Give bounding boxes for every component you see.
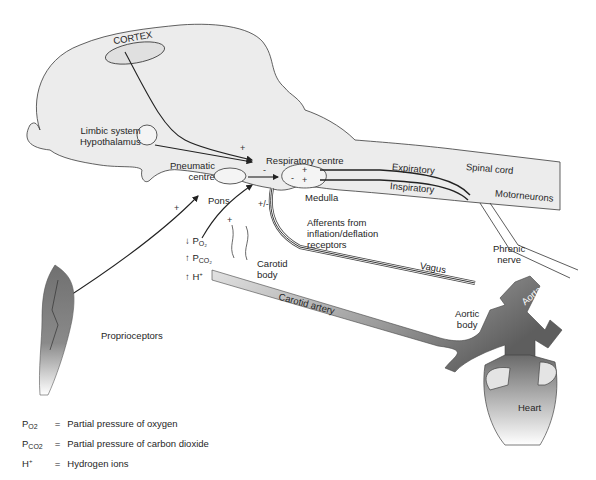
legend-symbol: PCO2 <box>22 438 52 450</box>
up-arrow-icon: ↑ <box>185 271 190 282</box>
stimulus-po2-sub: O₂ <box>199 240 207 247</box>
legend-symbol: H+ <box>22 458 52 469</box>
phrenic-line2: nerve <box>493 254 525 265</box>
limbic-line2: Hypothalamus <box>80 136 141 147</box>
aortic-body-line1: Aortic <box>455 308 479 319</box>
respiration-control-diagram: CORTEX Limbic system Hypothalamus Pneuma… <box>0 0 596 480</box>
cortex-plus-sign: + <box>240 143 245 153</box>
down-arrow-icon: ↓ <box>185 235 190 246</box>
diagram-artwork <box>0 0 596 480</box>
resp-minus-sign: - <box>291 173 294 183</box>
legend-item-h: H+ = Hydrogen ions <box>22 458 129 469</box>
heart-label: Heart <box>518 402 541 413</box>
legend-item-po2: PO2 = Partial pressure of oxygen <box>22 418 178 430</box>
legend-symbol-sup: + <box>29 458 33 464</box>
aortic-body-line2: body <box>455 319 479 330</box>
afferents-line1: Afferents from <box>307 217 378 228</box>
pons-label: Pons <box>208 195 230 206</box>
up-arrow-icon: ↑ <box>185 252 190 263</box>
legend-symbol-sub: CO2 <box>28 443 42 450</box>
proprioceptors-label: Proprioceptors <box>101 330 163 341</box>
carotid-body-line1: Carotid <box>257 258 288 269</box>
afferents-line2: inflation/deflation <box>307 228 378 239</box>
medulla-label: Medulla <box>305 192 338 203</box>
legend-equals: = <box>55 458 65 469</box>
stimulus-po2: ↓ PO₂ <box>185 235 207 249</box>
chemo-plus-sign: + <box>227 215 232 225</box>
pneumatic-minus-sign: - <box>263 165 266 175</box>
legend-item-pco2: PCO2 = Partial pressure of carbon dioxid… <box>22 438 209 450</box>
stimulus-h-sup: + <box>199 271 203 277</box>
resp-plus-sign-1: + <box>302 165 307 175</box>
limbic-line1: Limbic system <box>80 125 141 136</box>
carotid-body-label: Carotid body <box>257 258 288 280</box>
legend-symbol-base: H <box>22 458 29 469</box>
legend-symbol: PO2 <box>22 418 52 430</box>
pneumatic-label: Pneumatic centre <box>170 160 215 182</box>
stimulus-h: ↑ H+ <box>185 269 203 282</box>
legend-text: Partial pressure of carbon dioxide <box>67 438 209 449</box>
aortic-body-label: Aortic body <box>455 308 479 330</box>
afferents-line3: receptors <box>307 239 378 250</box>
resp-plus-sign-2: + <box>302 175 307 185</box>
legend-equals: = <box>55 418 65 429</box>
legend-equals: = <box>55 438 65 449</box>
pneumatic-area <box>214 168 246 184</box>
carotid-body-line2: body <box>257 269 288 280</box>
legend-text: Partial pressure of oxygen <box>67 418 177 429</box>
legend-text: Hydrogen ions <box>67 458 128 469</box>
stimulus-pco2: ↑ PCO₂ <box>185 252 212 266</box>
limbic-label: Limbic system Hypothalamus <box>80 125 141 147</box>
vagus-plusminus-sign: +/- <box>258 199 269 209</box>
pneumatic-line1: Pneumatic <box>170 160 215 171</box>
pneumatic-line2: centre <box>170 171 215 182</box>
phrenic-line1: Phrenic <box>493 243 525 254</box>
stimulus-pco2-sub: CO₂ <box>199 257 212 264</box>
legend-symbol-sub: O2 <box>28 423 37 430</box>
afferents-label: Afferents from inflation/deflation recep… <box>307 217 378 250</box>
proprio-plus-sign: + <box>174 203 179 213</box>
phrenic-label: Phrenic nerve <box>493 243 525 265</box>
